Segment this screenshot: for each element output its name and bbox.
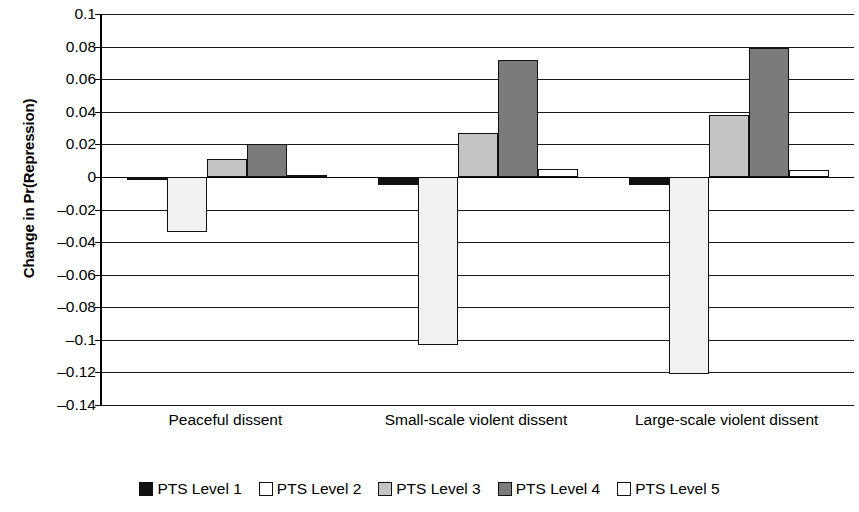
gridline [102, 14, 854, 15]
x-axis-label: Peaceful dissent [100, 410, 351, 429]
bar-chart: Change in Pr(Repression) 0.10.080.060.04… [0, 0, 859, 512]
y-axis-tick [95, 307, 102, 308]
bar [498, 60, 538, 177]
bar [749, 48, 789, 177]
legend-item: PTS Level 3 [378, 480, 480, 498]
y-axis-tick [95, 275, 102, 276]
y-tick-label: –0.04 [24, 234, 96, 250]
legend-label: PTS Level 2 [277, 480, 361, 498]
legend-item: PTS Level 2 [259, 480, 361, 498]
gridline [102, 79, 854, 80]
y-axis-tick-labels: 0.10.080.060.040.020–0.02–0.04–0.06–0.08… [20, 0, 96, 512]
y-axis-tick [95, 210, 102, 211]
gridline [102, 210, 854, 211]
bar [418, 177, 458, 345]
bar [709, 115, 749, 177]
bar [789, 170, 829, 177]
legend-item: PTS Level 1 [139, 480, 241, 498]
y-tick-label: –0.02 [24, 202, 96, 218]
y-tick-label: 0.08 [24, 39, 96, 55]
y-axis-tick [95, 112, 102, 113]
y-axis-tick [95, 372, 102, 373]
bar [207, 159, 247, 177]
y-tick-label: 0.1 [24, 6, 96, 22]
y-tick-label: –0.06 [24, 267, 96, 283]
x-axis-label: Large-scale violent dissent [601, 410, 852, 429]
gridline [102, 307, 854, 308]
y-axis-tick [95, 14, 102, 15]
gridline [102, 275, 854, 276]
y-tick-label: –0.12 [24, 364, 96, 380]
legend-swatch-icon [139, 482, 153, 496]
bar [538, 169, 578, 177]
y-tick-label: 0.04 [24, 104, 96, 120]
y-axis-tick [95, 242, 102, 243]
y-axis-tick [95, 340, 102, 341]
plot-area [100, 14, 854, 405]
gridline [102, 242, 854, 243]
gridline [102, 112, 854, 113]
legend-swatch-icon [498, 482, 512, 496]
chart-legend: PTS Level 1PTS Level 2PTS Level 3PTS Lev… [0, 480, 859, 498]
y-tick-label: –0.08 [24, 299, 96, 315]
gridline [102, 47, 854, 48]
x-axis-category-labels: Peaceful dissentSmall-scale violent diss… [100, 410, 852, 470]
gridline [102, 340, 854, 341]
y-tick-label: 0 [24, 169, 96, 185]
legend-item: PTS Level 4 [498, 480, 600, 498]
y-tick-label: –0.14 [24, 397, 96, 413]
y-axis-tick [95, 177, 102, 178]
y-axis-tick [95, 144, 102, 145]
y-axis-tick [95, 405, 102, 406]
zero-baseline [102, 177, 854, 178]
bar [669, 177, 709, 374]
legend-label: PTS Level 4 [516, 480, 600, 498]
legend-label: PTS Level 3 [396, 480, 480, 498]
legend-item: PTS Level 5 [617, 480, 719, 498]
bar [247, 144, 287, 177]
y-axis-tick [95, 79, 102, 80]
legend-swatch-icon [259, 482, 273, 496]
y-tick-label: –0.1 [24, 332, 96, 348]
bar [378, 177, 418, 185]
y-tick-label: 0.06 [24, 71, 96, 87]
legend-label: PTS Level 1 [157, 480, 241, 498]
x-axis-label: Small-scale violent dissent [351, 410, 602, 429]
legend-swatch-icon [378, 482, 392, 496]
gridline [102, 372, 854, 373]
bar [167, 177, 207, 232]
bar [458, 133, 498, 177]
y-tick-label: 0.02 [24, 136, 96, 152]
bar [629, 177, 669, 185]
bar [127, 177, 167, 180]
bar [287, 175, 327, 177]
legend-label: PTS Level 5 [635, 480, 719, 498]
gridline [102, 405, 854, 406]
legend-swatch-icon [617, 482, 631, 496]
y-axis-tick [95, 47, 102, 48]
